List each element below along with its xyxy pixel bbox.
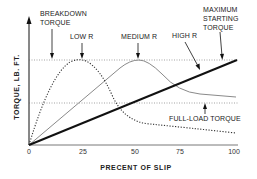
medium-r-label: MEDIUM R <box>121 33 157 40</box>
max-starting-arrow <box>220 32 222 56</box>
full-load-label: FULL-LOAD TORQUE <box>169 115 241 123</box>
high-r-arrow <box>185 42 198 66</box>
high-r-arrow-icon <box>196 64 201 71</box>
low-r-label: LOW R <box>70 33 93 40</box>
x-tick-75: 75 <box>176 148 184 155</box>
breakdown-label-line1: BREAKDOWN <box>40 10 87 17</box>
breakdown-arrow-icon <box>50 53 54 59</box>
x-tick-0: 0 <box>27 148 31 155</box>
full-load-arrow-icon <box>203 103 207 109</box>
torque-slip-chart: BREAKDOWN TORQUE LOW R MEDIUM R HIGH R M… <box>0 0 257 179</box>
max-starting-label-line1: MAXIMUM <box>203 6 238 13</box>
x-axis-title: PRECENT OF SLIP <box>100 164 172 171</box>
breakdown-label-line2: TORQUE <box>40 19 71 27</box>
x-tick-50: 50 <box>131 148 139 155</box>
medium-r-arrow-icon <box>136 53 140 59</box>
x-tick-25: 25 <box>79 148 87 155</box>
max-starting-arrow-icon <box>220 54 224 60</box>
low-r-arrow-icon <box>80 53 84 59</box>
high-r-line <box>29 60 237 145</box>
x-tick-100: 100 <box>228 148 240 155</box>
max-starting-label-line2: STARTING <box>203 15 239 22</box>
high-r-label: HIGH R <box>172 32 197 39</box>
max-starting-label-line3: TORQUE <box>203 24 234 32</box>
y-axis-title: TORQUE, LB. FT. <box>13 54 21 120</box>
y-axis-arrow-icon <box>27 16 32 24</box>
